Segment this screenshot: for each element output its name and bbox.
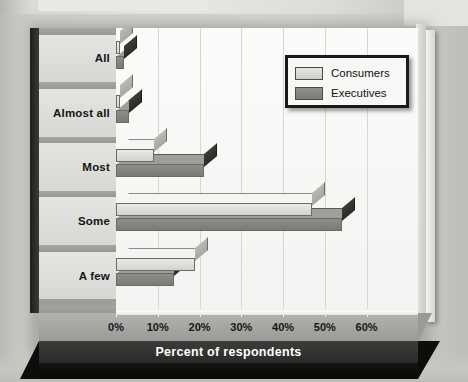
- category-row-some[interactable]: Some: [39, 197, 116, 245]
- value-axis-plate-end: [418, 313, 432, 341]
- bar-consumers-some[interactable]: [116, 203, 324, 216]
- category-band-separator: [39, 137, 116, 144]
- bar-side-face: [154, 128, 167, 152]
- base-right-wedge: [418, 341, 440, 379]
- bar-front-face: [116, 203, 312, 216]
- legend-label-consumers: Consumers: [331, 67, 390, 79]
- axis-tick-label-50: 50%: [314, 321, 336, 333]
- axis-tick-label-0: 0%: [108, 321, 124, 333]
- axis-title-band: Percent of respondents: [39, 341, 418, 363]
- legend-swatch-consumers-icon: [295, 67, 323, 80]
- category-row-all[interactable]: All: [39, 35, 116, 83]
- base-left-wedge: [20, 341, 39, 379]
- bar-consumers-a-few[interactable]: [116, 258, 207, 271]
- bar-executives-almost-all[interactable]: [116, 110, 141, 123]
- legend-label-executives: Executives: [331, 87, 387, 99]
- page-margin-highlight-left: [38, 0, 208, 11]
- gridline-40: [283, 28, 284, 313]
- category-label: Almost all: [53, 107, 110, 119]
- category-band-separator: [39, 245, 116, 252]
- axis-tick-label-20: 20%: [189, 321, 211, 333]
- bar-executives-some[interactable]: [116, 218, 354, 231]
- gridline-30: [241, 28, 242, 313]
- axis-tick-label-30: 30%: [230, 321, 252, 333]
- bar-front-face: [116, 273, 174, 286]
- category-axis: AllAlmost allMostSomeA few: [39, 28, 116, 313]
- bar-front-face: [116, 164, 204, 177]
- bar-front-face: [116, 110, 129, 123]
- category-label: A few: [79, 270, 110, 282]
- bar-front-face: [116, 149, 154, 162]
- bar-side-face: [342, 197, 355, 221]
- bar-chart: AllAlmost allMostSomeA few 0%10%20%30%40…: [20, 18, 440, 358]
- category-label: Some: [78, 215, 110, 227]
- chart-legend[interactable]: Consumers Executives: [285, 55, 409, 108]
- category-band-separator: [39, 82, 116, 89]
- bar-executives-a-few[interactable]: [116, 273, 186, 286]
- chart-left-spine: [30, 28, 39, 313]
- category-label: Most: [82, 161, 110, 173]
- bar-executives-most[interactable]: [116, 164, 216, 177]
- bar-executives-all[interactable]: [116, 56, 136, 69]
- bar-front-face: [116, 218, 342, 231]
- bar-side-face: [195, 237, 208, 261]
- axis-tick-label-40: 40%: [272, 321, 294, 333]
- bar-front-face: [116, 56, 124, 69]
- chart-side-panel-outer: [426, 30, 435, 322]
- bar-side-face: [204, 143, 217, 167]
- bar-front-face: [116, 258, 195, 271]
- bar-front-face: [116, 95, 120, 108]
- bar-consumers-all[interactable]: [116, 41, 132, 54]
- category-row-almost-all[interactable]: Almost all: [39, 89, 116, 137]
- value-axis-plate: 0%10%20%30%40%50%60%: [39, 313, 418, 341]
- category-band-separator: [39, 306, 116, 313]
- base-front-face: [39, 363, 418, 379]
- bar-side-face: [120, 28, 133, 44]
- legend-item-consumers[interactable]: Consumers: [295, 63, 399, 83]
- axis-tick-label-60: 60%: [356, 321, 378, 333]
- bar-front-face: [116, 41, 120, 54]
- value-axis-bevel: [116, 311, 418, 315]
- axis-tick-label-10: 10%: [147, 321, 169, 333]
- category-row-a-few[interactable]: A few: [39, 252, 116, 300]
- legend-item-executives[interactable]: Executives: [295, 83, 399, 103]
- category-row-most[interactable]: Most: [39, 143, 116, 191]
- category-band-separator: [39, 191, 116, 198]
- bar-consumers-almost-all[interactable]: [116, 95, 132, 108]
- legend-swatch-executives-icon: [295, 87, 323, 100]
- bar-consumers-most[interactable]: [116, 149, 166, 162]
- x-axis-title: Percent of respondents: [39, 341, 418, 363]
- category-label: All: [95, 52, 110, 64]
- bar-side-face: [120, 74, 133, 98]
- bar-side-face: [312, 182, 325, 206]
